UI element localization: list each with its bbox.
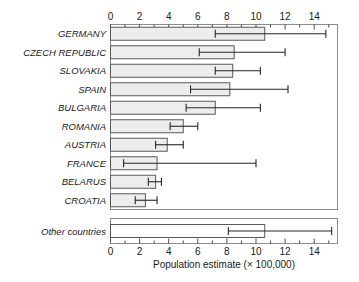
x-axis-title: Population estimate (× 100,000)	[153, 259, 295, 270]
x-tick-label-bottom: 14	[309, 246, 321, 257]
category-label: Other countries	[41, 226, 106, 237]
category-label: BELARUS	[62, 176, 107, 187]
top-tick-labels: 02468101214	[108, 11, 320, 22]
category-label: CROATIA	[64, 195, 106, 206]
category-labels: GERMANYCZECH REPUBLICSLOVAKIASPAINBULGAR…	[23, 28, 107, 236]
category-label: SLOVAKIA	[60, 65, 106, 76]
x-tick-label-top: 6	[195, 11, 201, 22]
chart-canvas: GERMANYCZECH REPUBLICSLOVAKIASPAINBULGAR…	[0, 0, 359, 282]
x-tick-label-bottom: 10	[250, 246, 262, 257]
category-label: CZECH REPUBLIC	[23, 47, 106, 58]
x-tick-label-bottom: 4	[166, 246, 172, 257]
bottom-tick-labels: 02468101214	[108, 246, 320, 257]
category-label: GERMANY	[58, 28, 107, 39]
x-tick-label-top: 0	[108, 11, 114, 22]
x-tick-label-bottom: 8	[224, 246, 230, 257]
category-label: ROMANIA	[62, 121, 106, 132]
x-tick-label-top: 12	[280, 11, 292, 22]
x-tick-label-top: 14	[309, 11, 321, 22]
x-tick-label-top: 2	[137, 11, 143, 22]
x-tick-label-top: 10	[250, 11, 262, 22]
category-label: FRANCE	[67, 158, 107, 169]
category-label: BULGARIA	[58, 102, 106, 113]
x-tick-label-bottom: 2	[137, 246, 143, 257]
x-tick-label-top: 8	[224, 11, 230, 22]
population-estimate-bar-chart: GERMANYCZECH REPUBLICSLOVAKIASPAINBULGAR…	[0, 0, 359, 282]
category-label: SPAIN	[78, 84, 106, 95]
bars-group	[111, 27, 332, 237]
bottom-axis	[111, 239, 329, 244]
x-tick-label-bottom: 12	[280, 246, 292, 257]
x-tick-label-top: 4	[166, 11, 172, 22]
x-tick-label-bottom: 0	[108, 246, 114, 257]
bar	[111, 64, 233, 77]
x-tick-label-bottom: 6	[195, 246, 201, 257]
category-label: AUSTRIA	[64, 139, 106, 150]
